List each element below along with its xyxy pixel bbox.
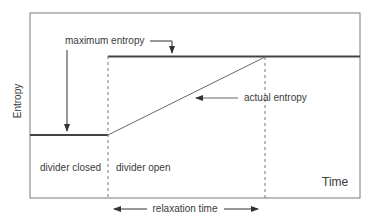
entropy-diagram: maximum entropy actual entropy divider c…: [0, 0, 378, 223]
relaxation-time-label: relaxation time: [152, 203, 217, 214]
x-axis-label: Time: [322, 175, 349, 189]
y-axis-label: Entropy: [12, 84, 23, 118]
divider-open-label: divider open: [116, 162, 170, 173]
maximum-entropy-label: maximum entropy: [65, 35, 144, 46]
actual-entropy-label: actual entropy: [244, 92, 307, 103]
maximum-entropy-arrow: [150, 41, 172, 53]
actual-entropy-line: [108, 57, 265, 135]
divider-closed-label: divider closed: [40, 162, 101, 173]
